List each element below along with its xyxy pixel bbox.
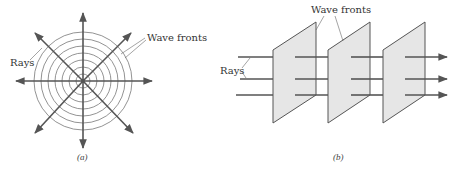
rays-label-b: Rays [220,65,245,76]
wave-fronts-leader-b1 [316,16,324,30]
caption-a: (a) [77,152,88,162]
radial-rays [16,13,152,148]
rays-leader-b1 [242,58,250,68]
wave-fronts-label-b: Wave fronts [311,4,371,15]
wave-fronts-diagram: Rays Wave fronts (a) Rays Wave fronts [0,0,457,169]
wave-front-plate-2 [328,22,370,123]
figure-b-plane-waves: Rays Wave fronts (b) [220,4,447,162]
wave-fronts-label-a: Wave fronts [147,32,207,43]
rays-leader-a [30,48,42,60]
figure-a-spherical-waves: Rays Wave fronts (a) [10,13,207,162]
caption-b: (b) [333,152,344,162]
rays-label-a: Rays [10,57,35,68]
wave-fronts-leader-b2 [335,16,343,41]
wave-front-plate-3 [383,22,425,123]
wave-front-plate-1 [273,22,316,123]
